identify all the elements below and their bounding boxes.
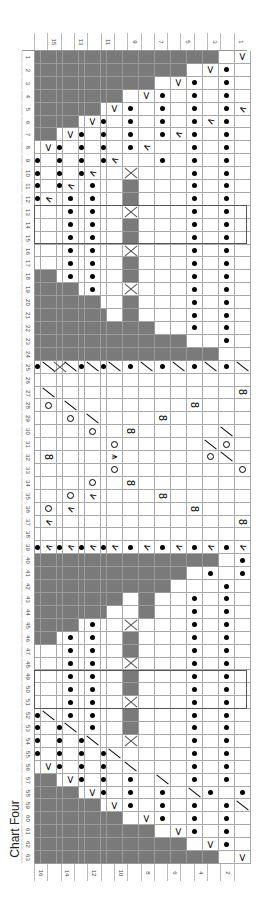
no-stitch-cell	[139, 51, 155, 64]
chart-cell	[171, 270, 187, 283]
slip-v-icon: >	[65, 775, 76, 784]
purl-dot-icon	[224, 222, 229, 227]
chart-cell	[187, 206, 203, 219]
purl-dot-icon	[224, 803, 229, 808]
chart-cell: 8	[187, 399, 203, 412]
no-stitch-cell	[41, 567, 57, 580]
chart-cell	[123, 541, 139, 554]
no-stitch-cell	[41, 838, 57, 851]
row-number: 7	[22, 129, 35, 141]
chart-cell	[155, 322, 171, 335]
chart-cell	[187, 296, 203, 309]
chart-cell	[203, 219, 219, 232]
chart-cell	[171, 464, 187, 477]
purl-dot-icon	[128, 364, 133, 369]
chart-cell	[171, 748, 187, 761]
purl-dot-icon	[90, 648, 95, 653]
no-stitch-cell	[63, 322, 79, 335]
chart-cell	[107, 283, 123, 296]
chart-cell	[107, 606, 123, 619]
no-stitch-cell	[107, 348, 123, 361]
right-decrease-slash-icon	[220, 426, 233, 436]
purl-dot-icon	[192, 674, 197, 679]
no-stitch-cell	[85, 593, 101, 606]
chart-cell	[235, 322, 251, 335]
chart-cell: >	[171, 825, 187, 838]
chart-cell	[41, 683, 57, 696]
chart-cell	[235, 361, 251, 374]
chart-cell	[41, 180, 57, 193]
left-decrease-icon: ∧	[64, 180, 76, 191]
no-stitch-cell	[171, 64, 187, 77]
chart-cell	[139, 193, 155, 206]
purl-dot-icon	[35, 364, 40, 369]
column-number: 4	[194, 864, 207, 881]
chart-cell	[203, 374, 219, 387]
chart-cell	[85, 219, 101, 232]
chart-cell	[187, 464, 203, 477]
chart-cell	[85, 206, 101, 219]
chart-cell	[85, 399, 101, 412]
chart-cell	[203, 438, 219, 451]
no-stitch-cell	[41, 606, 57, 619]
no-stitch-cell	[203, 348, 219, 361]
chart-cell	[187, 774, 203, 787]
chart-cell	[235, 167, 251, 180]
purl-dot-icon	[160, 119, 165, 124]
no-stitch-cell	[41, 812, 57, 825]
chart-cell: ⩚	[107, 451, 123, 464]
purl-dot-icon	[224, 209, 229, 214]
purl-dot-icon	[192, 713, 197, 718]
twisted-stitch-icon: 8	[190, 505, 200, 511]
purl-dot-icon	[224, 235, 229, 240]
left-decrease-icon: ∧	[140, 542, 152, 553]
purl-dot-icon	[160, 158, 165, 163]
row-number: 58	[22, 787, 35, 799]
purl-dot-icon	[192, 622, 197, 627]
cross-x-icon	[123, 206, 138, 218]
chart-cell: 8	[123, 477, 139, 490]
slip-v-icon: >	[141, 814, 152, 823]
chart-cell	[235, 735, 251, 748]
row-number: 42	[22, 581, 35, 593]
no-stitch-cell	[123, 851, 139, 864]
column-number: 10	[114, 864, 127, 881]
row-number: 53	[22, 722, 35, 734]
chart-cell: >	[107, 799, 123, 812]
left-decrease-icon: ∧	[42, 542, 54, 553]
chart-cell	[235, 490, 251, 503]
left-decrease-icon: ∧	[172, 129, 184, 140]
chart-cell	[219, 516, 235, 529]
chart-cell	[139, 799, 155, 812]
purl-dot-icon	[192, 648, 197, 653]
chart-cell	[187, 619, 203, 632]
no-stitch-cell	[107, 90, 123, 103]
row-number: 24	[22, 348, 35, 360]
no-stitch-cell	[123, 335, 139, 348]
no-stitch-cell	[123, 296, 139, 309]
chart-cell	[155, 761, 171, 774]
left-decrease-icon: ∧	[236, 103, 248, 114]
chart-cell	[63, 270, 79, 283]
chart-cell	[235, 683, 251, 696]
chart-cell	[171, 528, 187, 541]
chart-cell	[171, 606, 187, 619]
chart-cell	[85, 141, 101, 154]
chart-cell	[63, 748, 79, 761]
chart-cell	[41, 464, 57, 477]
no-stitch-cell	[63, 580, 79, 593]
chart-cell	[235, 567, 251, 580]
purl-dot-icon	[68, 209, 73, 214]
chart-cell	[123, 141, 139, 154]
chart-cell	[187, 632, 203, 645]
chart-cell	[85, 412, 101, 425]
chart-cell	[107, 528, 123, 541]
chart-cell	[155, 477, 171, 490]
chart-cell	[123, 103, 139, 116]
chart-cell	[123, 516, 139, 529]
purl-dot-icon	[224, 145, 229, 150]
chart-cell	[85, 774, 101, 787]
cross-x-icon	[123, 696, 138, 708]
chart-cell	[123, 438, 139, 451]
chart-cell	[235, 257, 251, 270]
